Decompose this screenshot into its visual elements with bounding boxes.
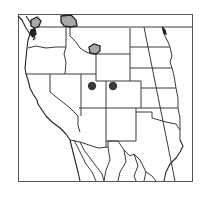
us-mexico-border: [70, 140, 156, 181]
occurrence-dot-colorado: [109, 82, 117, 90]
mexico-state-lines: [104, 147, 146, 181]
occurrence-dot-utah: [88, 82, 96, 90]
range-patch-northeast: [163, 28, 166, 34]
mississippi-edge: [162, 27, 180, 130]
range-patch-washington-lower: [30, 29, 36, 37]
range-map: [0, 0, 202, 200]
idaho-west-border: [64, 27, 66, 74]
wa-or-border: [28, 46, 66, 48]
range-patch-washington: [31, 17, 41, 28]
map-svg: [0, 0, 202, 200]
pacific-coastline: [18, 16, 80, 181]
texas-panhandle: [136, 112, 180, 140]
range-patch-north-idaho: [61, 15, 77, 27]
range-patch-southwest-montana: [89, 44, 100, 54]
